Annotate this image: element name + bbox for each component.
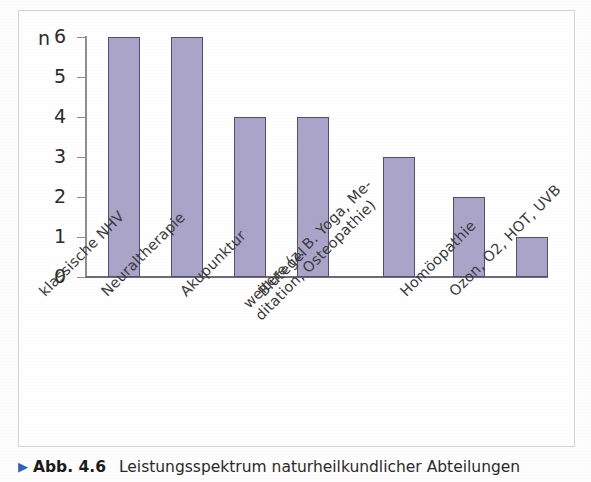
scanned-page: n 6 5 4 3 2 1 0 <box>0 0 591 482</box>
caption-marker-icon: ▶ <box>18 459 28 474</box>
caption-number: Abb. 4.6 <box>33 458 106 476</box>
caption-text: Leistungsspektrum naturheilkundlicher Ab… <box>119 458 520 476</box>
figure-frame <box>18 10 575 447</box>
figure-caption: ▶Abb. 4.6Leistungsspektrum naturheilkund… <box>18 458 578 476</box>
